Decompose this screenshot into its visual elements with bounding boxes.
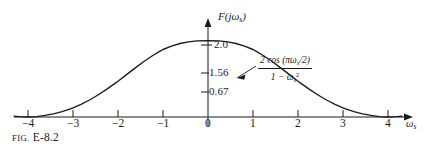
y-axis-arrowhead [205,18,212,27]
x-tick-label-3: 3 [340,118,346,130]
y-tick-label-1.56: 1.56 [209,67,229,78]
x-tick-label-minus-1: −1 [157,118,169,130]
x-tick-label-minus-3: −3 [67,118,79,130]
x-tick-label-minus-2: −2 [112,118,124,130]
y-tick-label-2.0: 2.0 [214,39,228,50]
figure-caption: FIG. E-8.2 [12,132,59,144]
x-tick-label-1: 1 [250,118,256,130]
equation-numerator: 2 cos (πωs/2) [258,55,312,68]
x-axis-title: ωs [406,119,416,130]
x-tick-label-2: 2 [295,118,301,130]
y-tick-label-0.67: 0.67 [209,86,229,97]
x-tick-label-0: 0 [205,118,211,130]
annotation-leader-line [237,66,256,78]
x-tick-label-minus-4: −4 [22,118,34,130]
caption-label: E-8.2 [33,131,59,143]
equation-annotation: 2 cos (πωs/2) 1 − ωs2 [258,55,312,83]
y-axis-title: F(jωs) [218,11,246,24]
x-tick-label-4: 4 [385,118,391,130]
x-axis-title-subscript: s [413,122,416,131]
caption-prefix: FIG. [12,133,30,143]
equation-denominator: 1 − ωs2 [258,70,312,84]
denominator-exponent: 2 [296,71,299,78]
figure-container: F(jωs) ωs 2.0 1.56 0.67 −4 −3 −2 −1 0 1 … [0,0,428,153]
